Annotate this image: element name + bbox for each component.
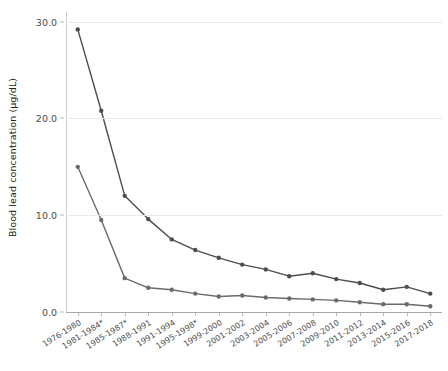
data-point-marker (428, 291, 432, 295)
data-point-marker (264, 267, 268, 271)
data-point-marker (264, 295, 268, 299)
data-point-marker (405, 285, 409, 289)
y-tick-mark (60, 118, 64, 119)
x-tick-mark (195, 313, 196, 316)
y-tick-mark (60, 312, 64, 313)
data-point-marker (146, 286, 150, 290)
y-tick-mark (60, 215, 64, 216)
x-tick-mark (101, 313, 102, 316)
y-tick-label: 0.0 (42, 307, 57, 318)
data-point-marker (76, 27, 80, 31)
x-tick-mark (148, 313, 149, 316)
chart-figure: Blood lead concentration (µg/dL) 0.010.0… (0, 0, 448, 371)
data-point-marker (311, 297, 315, 301)
data-point-marker (123, 194, 127, 198)
x-tick-mark (266, 313, 267, 316)
data-point-marker (358, 281, 362, 285)
data-point-marker (311, 271, 315, 275)
data-point-marker (193, 248, 197, 252)
x-tick-mark (242, 313, 243, 316)
data-point-marker (334, 277, 338, 281)
x-tick-mark (219, 313, 220, 316)
y-gridline (66, 118, 442, 119)
plot-area (66, 12, 442, 312)
series-line (78, 167, 431, 306)
data-point-marker (240, 262, 244, 266)
data-point-marker (217, 256, 221, 260)
data-point-marker (123, 276, 127, 280)
data-point-marker (217, 294, 221, 298)
x-tick-mark (430, 313, 431, 316)
y-tick-label: 10.0 (36, 210, 57, 221)
x-tick-mark (289, 313, 290, 316)
y-tick-label: 30.0 (36, 16, 57, 27)
data-point-marker (193, 291, 197, 295)
data-point-marker (146, 217, 150, 221)
x-tick-mark (360, 313, 361, 316)
x-tick-mark (383, 313, 384, 316)
data-point-marker (358, 300, 362, 304)
y-axis-title-text: Blood lead concentration (µg/dL) (8, 78, 19, 237)
x-tick-mark (125, 313, 126, 316)
x-tick-mark (172, 313, 173, 316)
data-point-marker (381, 302, 385, 306)
y-gridline (66, 22, 442, 23)
y-axis-ticks: 0.010.020.030.0 (22, 0, 64, 371)
data-point-marker (170, 237, 174, 241)
data-point-marker (428, 304, 432, 308)
series-line (78, 29, 431, 293)
data-point-marker (381, 288, 385, 292)
y-gridline (66, 215, 442, 216)
x-tick-mark (78, 313, 79, 316)
data-point-marker (405, 302, 409, 306)
y-tick-label: 20.0 (36, 113, 57, 124)
data-point-marker (170, 288, 174, 292)
x-tick-mark (313, 313, 314, 316)
x-tick-mark (407, 313, 408, 316)
x-axis-ticks: 1976-19801981-1984*1985-1987*1988-199119… (66, 313, 442, 371)
data-point-marker (99, 109, 103, 113)
data-point-marker (334, 298, 338, 302)
data-point-marker (240, 293, 244, 297)
data-point-marker (76, 165, 80, 169)
series-layer (66, 12, 442, 312)
data-point-marker (99, 218, 103, 222)
data-point-marker (287, 296, 291, 300)
x-tick-mark (336, 313, 337, 316)
y-tick-mark (60, 21, 64, 22)
data-point-marker (287, 274, 291, 278)
